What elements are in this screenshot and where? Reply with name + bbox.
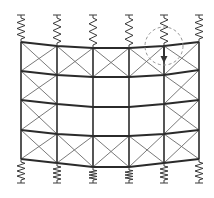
brace-diagonal <box>57 48 93 75</box>
brace-diagonal <box>164 130 199 163</box>
brace-diagonal <box>129 46 164 77</box>
top-springs <box>17 15 203 48</box>
beam <box>21 159 199 167</box>
spring-icon <box>89 167 97 183</box>
beam <box>21 100 199 107</box>
beam <box>21 42 199 48</box>
spring-icon <box>125 15 133 48</box>
brace-diagonal <box>21 134 57 159</box>
brace-diagonal <box>164 100 199 134</box>
brace-diagonal <box>21 46 57 71</box>
brace-diagonal <box>21 75 57 100</box>
beam <box>21 70 199 77</box>
spring-icon <box>195 15 203 42</box>
x-braces <box>21 42 199 167</box>
spring-icon <box>53 15 61 46</box>
braced-frame-diagram <box>0 0 214 198</box>
spring-icon <box>195 159 203 183</box>
spring-icon <box>89 15 97 48</box>
brace-diagonal <box>57 136 93 163</box>
down-arrow-icon <box>161 56 168 63</box>
frame-columns <box>21 42 199 167</box>
spring-icon <box>17 15 25 42</box>
spring-icon <box>53 163 61 183</box>
brace-diagonal <box>129 134 164 167</box>
spring-icon <box>125 167 133 183</box>
beam <box>21 130 199 136</box>
frame-beams <box>21 42 199 167</box>
brace-diagonal <box>57 134 93 167</box>
spring-icon <box>17 159 25 183</box>
spring-icon <box>160 15 168 46</box>
spring-icon <box>160 163 168 183</box>
brace-diagonal <box>129 136 164 163</box>
brace-diagonal <box>21 104 57 130</box>
